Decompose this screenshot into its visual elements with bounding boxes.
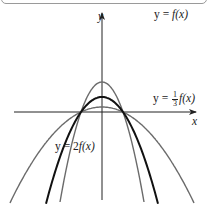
fraction-one-third: 13 <box>172 91 178 108</box>
y-axis-label: y <box>98 11 103 23</box>
x-axis-label: x <box>192 116 197 128</box>
label-two-f: y = 2f(x) <box>55 141 95 153</box>
label-f: y = f(x) <box>154 9 188 21</box>
label-one-third-f: y = 13f(x) <box>153 91 195 108</box>
